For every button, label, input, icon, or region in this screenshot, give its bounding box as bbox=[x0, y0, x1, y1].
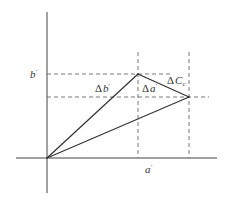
label-delta-b-prime: Δb' bbox=[95, 82, 110, 94]
top-vertex-point bbox=[137, 73, 139, 75]
label-delta-a-prime: Δa' bbox=[142, 82, 157, 94]
right-vertex-point bbox=[188, 96, 190, 98]
label-a-prime: a' bbox=[145, 163, 153, 175]
diagram-svg: b' a' Δb' Δa' ΔCc bbox=[0, 0, 228, 203]
vector-origin-to-top bbox=[47, 74, 138, 158]
vector-origin-to-right bbox=[47, 97, 189, 158]
origin-point bbox=[46, 157, 48, 159]
label-delta-c-c: ΔCc bbox=[167, 74, 186, 88]
diagram-canvas: b' a' Δb' Δa' ΔCc bbox=[0, 0, 228, 203]
label-b-prime: b' bbox=[30, 68, 38, 80]
